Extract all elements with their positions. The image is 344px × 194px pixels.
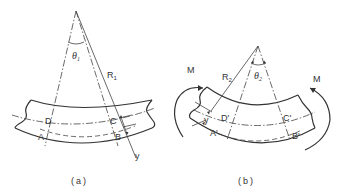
point-a-A: A	[38, 132, 44, 142]
point-a-C: C	[110, 116, 117, 126]
beam-a-radius-line	[76, 11, 136, 158]
beam-bending-diagram: θ1 R1 y D C A B (a)	[0, 0, 344, 194]
dim-a-label: y	[135, 151, 140, 161]
point-b-B: B'	[292, 131, 300, 141]
beam-a-neutral-axis	[12, 108, 155, 124]
point-a-D: D	[45, 116, 52, 126]
radius-a-label: R1	[107, 70, 118, 81]
beam-b-neutral-axis	[194, 110, 315, 126]
point-a-B: B	[115, 132, 121, 142]
beam-a-left-break	[15, 100, 31, 128]
beam-a-right-break	[147, 100, 155, 128]
beam-b-top-edge	[207, 87, 298, 105]
beam-b-radial-right	[258, 46, 290, 140]
beam-a-top-edge	[31, 100, 152, 108]
moment-left-label: M	[187, 65, 195, 75]
caption-a: (a)	[71, 176, 88, 186]
figure-a: θ1 R1 y D C A B (a)	[12, 11, 155, 186]
beam-a-bottom-edge	[15, 128, 152, 143]
caption-b: (b)	[238, 176, 255, 186]
angle-b-arrow-left-icon	[251, 61, 254, 64]
point-b-A: A'	[210, 128, 218, 138]
radius-b-label: R2	[222, 72, 233, 83]
angle-a-label: θ1	[72, 50, 80, 62]
angle-b-label: θ2	[254, 70, 262, 82]
beam-b-radial-left	[227, 46, 258, 140]
point-b-C: C'	[283, 113, 291, 123]
moment-right-arc	[305, 88, 330, 150]
dim-b-arrow-top-icon	[207, 111, 210, 115]
beam-b-right-break	[298, 95, 315, 128]
moment-left-arrow-icon	[198, 85, 203, 91]
angle-a-arc	[68, 42, 84, 44]
point-b-D: D'	[221, 113, 229, 123]
dim-b-label: y	[204, 115, 209, 125]
beam-b-left-break	[190, 87, 208, 118]
figure-b: θ2 R2 y D' C' A' B' M M (b)	[175, 46, 330, 186]
dim-a-line	[121, 117, 127, 134]
moment-right-label: M	[313, 74, 321, 84]
